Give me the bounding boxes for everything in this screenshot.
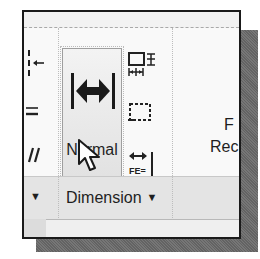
dimension-panel-title[interactable]: Dimension▼ (66, 189, 157, 207)
inspect-dimension-icon[interactable] (128, 100, 162, 130)
right-partial-top-text: F (224, 116, 234, 134)
footer-separator (58, 177, 60, 220)
left-panel-icons (26, 50, 60, 190)
linear-dimension-icon (69, 69, 117, 113)
small-buttons-column: FE= (128, 50, 168, 190)
dimension-break-icon[interactable] (26, 50, 48, 80)
left-panel-dropdown-icon[interactable]: ▼ (30, 190, 41, 202)
svg-text:FE=: FE= (129, 166, 146, 176)
ribbon-bottom-edge (24, 219, 239, 239)
dimension-panel-label: Dimension (66, 189, 142, 206)
right-partial-label[interactable]: Rec (210, 138, 238, 156)
ribbon-crop-frame: Normal (22, 10, 241, 239)
footer-separator (172, 177, 174, 220)
dimension-space-adjust-icon[interactable] (128, 52, 162, 82)
ribbon-body: Normal (24, 28, 239, 176)
ribbon-top-strip (24, 12, 239, 28)
oblique-icon[interactable] (26, 146, 48, 164)
chevron-down-icon: ▼ (147, 191, 158, 203)
mouse-pointer-icon (77, 138, 103, 174)
panel-separator (172, 28, 174, 176)
panel-title-bar: ▼ Dimension▼ (24, 176, 239, 220)
dimension-space-icon[interactable] (26, 106, 48, 120)
ribbon-bottom-notch (24, 219, 46, 239)
panel-separator (58, 28, 60, 176)
